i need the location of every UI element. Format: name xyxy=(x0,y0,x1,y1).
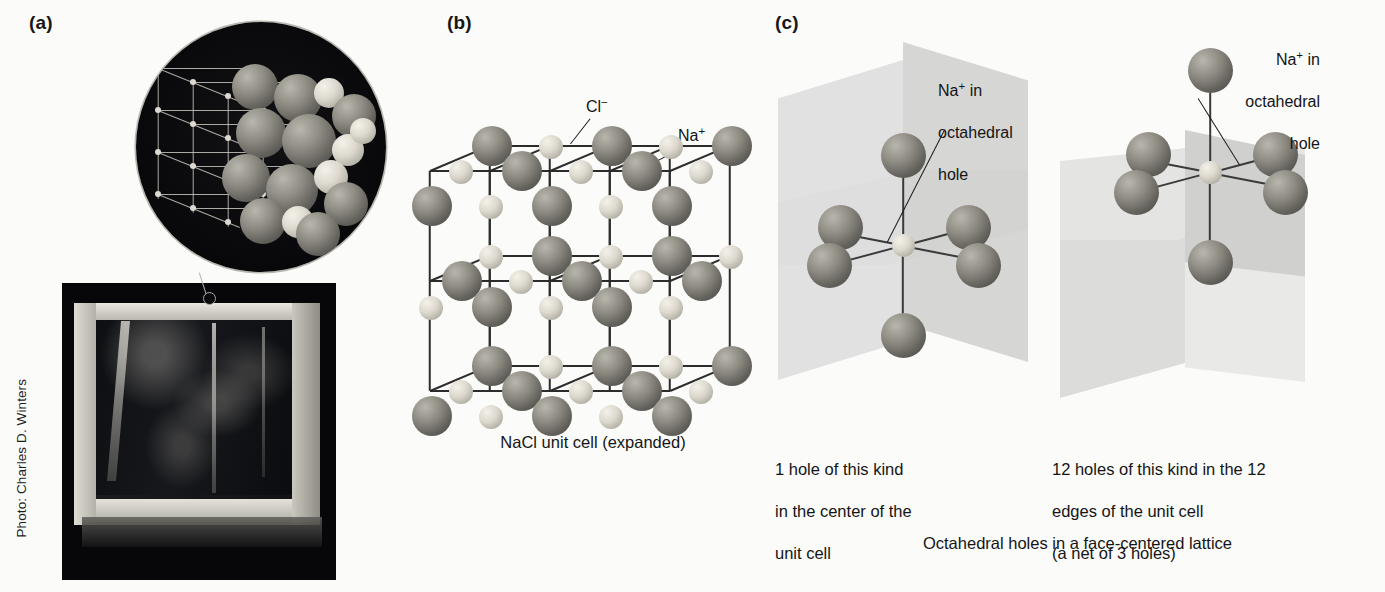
octahedral-edge-diagram: Na+ in octahedral hole 12 holes of this … xyxy=(1050,0,1380,430)
sodium-ion xyxy=(689,380,713,404)
caption-octahedral-holes-summary: Octahedral holes in a face-centered latt… xyxy=(770,533,1385,554)
caption-unit-cell: NaCl unit cell (expanded) xyxy=(433,432,753,453)
sodium-ion xyxy=(539,135,563,159)
callout-line-hole: hole xyxy=(938,164,1013,185)
chloride-ion xyxy=(532,396,572,436)
caption-left-line2: in the center of the xyxy=(775,501,912,522)
chloride-ion xyxy=(502,151,542,191)
chloride-ion xyxy=(652,396,692,436)
sodium-ion xyxy=(599,245,623,269)
nacl-lattice xyxy=(400,0,770,430)
sodium-ion xyxy=(569,380,593,404)
crystal-cleavage-streak-3 xyxy=(262,327,265,477)
crystal-top-edge xyxy=(74,303,320,320)
sodium-ion xyxy=(629,270,653,294)
sodium-ion xyxy=(509,270,533,294)
chloride-ion xyxy=(881,313,926,358)
callout-na-base: Na xyxy=(938,82,958,99)
chloride-ion xyxy=(592,287,632,327)
octahedral-center-diagram: Na+ in octahedral hole 1 hole of this ki… xyxy=(770,0,1070,430)
crystal-base-shadow xyxy=(82,517,322,547)
sodium-ion xyxy=(569,160,593,184)
crystal-cleavage-streak-2 xyxy=(212,323,216,493)
sodium-ion xyxy=(719,245,743,269)
panel-a-photograph: (a) Photo: Charles D. Winters xyxy=(0,0,400,592)
chloride-ion xyxy=(881,133,926,178)
chloride-ion xyxy=(532,186,572,226)
sodium-ion xyxy=(659,135,683,159)
chloride-ion xyxy=(1188,240,1233,285)
panel-b-unit-cell: (b) Cl− Na+ xyxy=(400,0,770,592)
crystal-right-edge xyxy=(292,303,320,525)
caption-left-hole: 1 hole of this kind in the center of the… xyxy=(775,438,912,585)
chloride-ion xyxy=(712,126,752,166)
caption-left-line1: 1 hole of this kind xyxy=(775,459,912,480)
sodium-ion xyxy=(659,296,683,320)
callout-na-rest: in xyxy=(965,82,982,99)
callout-na-octahedral-left: Na+ in octahedral hole xyxy=(938,55,1013,206)
sodium-ion xyxy=(539,296,563,320)
figure-root: (a) Photo: Charles D. Winters xyxy=(0,0,1385,592)
sodium-ion xyxy=(689,160,713,184)
inset-leader-dot xyxy=(203,292,216,305)
chloride-ion xyxy=(412,186,452,226)
sodium-ion xyxy=(479,195,503,219)
caption-right-hole: 12 holes of this kind in the 12 edges of… xyxy=(1052,438,1266,585)
halite-crystal-photo xyxy=(62,283,336,580)
sodium-ion-in-hole xyxy=(892,234,915,257)
chloride-ion xyxy=(652,186,692,226)
sodium-ion xyxy=(449,160,473,184)
callout-line-hole: hole xyxy=(1190,133,1320,154)
caption-right-line1: 12 holes of this kind in the 12 xyxy=(1052,459,1266,480)
sodium-ion xyxy=(599,405,623,429)
magnified-inset-circle xyxy=(136,22,386,272)
photo-credit: Photo: Charles D. Winters xyxy=(14,388,29,538)
sodium-ion xyxy=(479,245,503,269)
chloride-ion xyxy=(622,151,662,191)
chloride-ion xyxy=(956,243,1001,288)
chloride-ion xyxy=(1114,170,1159,215)
panel-c-octahedral-holes: (c) Na+ in octah xyxy=(770,0,1385,592)
sodium-ion xyxy=(659,355,683,379)
callout-line-octahedral: octahedral xyxy=(938,122,1013,143)
chloride-ion xyxy=(807,243,852,288)
panel-letter-a: (a) xyxy=(29,12,53,34)
sodium-ion xyxy=(419,296,443,320)
sodium-ion xyxy=(479,405,503,429)
callout-na-rest: in xyxy=(1303,51,1320,68)
callout-na-octahedral-right: Na+ in octahedral hole xyxy=(1190,24,1320,175)
crystal-left-edge xyxy=(74,303,96,525)
chloride-ion xyxy=(472,287,512,327)
sodium-ion xyxy=(599,195,623,219)
caption-right-line2: edges of the unit cell xyxy=(1052,501,1266,522)
chloride-ion xyxy=(712,346,752,386)
callout-na-base: Na xyxy=(1276,51,1296,68)
chloride-ion xyxy=(682,261,722,301)
sodium-ion xyxy=(539,355,563,379)
sodium-ion xyxy=(449,380,473,404)
chloride-ion xyxy=(1263,170,1308,215)
crystal-body xyxy=(74,303,324,548)
chloride-ion xyxy=(412,396,452,436)
callout-line-octahedral: octahedral xyxy=(1190,91,1320,112)
